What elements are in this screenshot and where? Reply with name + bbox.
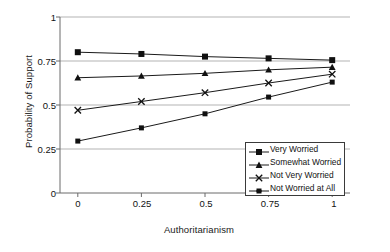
data-point-marker xyxy=(266,95,271,100)
legend-marker-square-small-icon xyxy=(248,183,270,195)
legend-item-not-worried-at-all: Not Worried at All xyxy=(246,182,344,195)
legend-marker-cross-icon xyxy=(248,170,270,182)
series-4 xyxy=(75,80,334,144)
data-point-marker xyxy=(139,125,144,130)
legend-label: Very Worried xyxy=(270,145,318,153)
legend-item-somewhat-worried: Somewhat Worried xyxy=(246,156,344,169)
legend-label: Not Very Worried xyxy=(270,171,334,179)
data-series-layer xyxy=(74,49,335,143)
plot-area xyxy=(0,0,390,252)
chart-figure: Probability of Support 1 0.75 0.5 0.25 0… xyxy=(0,0,390,252)
legend-item-very-worried: Very Worried xyxy=(246,143,344,156)
data-point-marker xyxy=(266,55,272,61)
chart-legend: Very Worried Somewhat Worried Not Very W… xyxy=(245,142,345,196)
legend-marker-triangle-icon xyxy=(248,157,270,169)
series-2 xyxy=(74,64,335,81)
legend-label: Not Worried at All xyxy=(270,184,335,192)
data-point-marker xyxy=(330,80,335,85)
series-3 xyxy=(75,71,336,113)
legend-item-not-very-worried: Not Very Worried xyxy=(246,169,344,182)
legend-marker-square-icon xyxy=(248,144,270,156)
data-point-marker xyxy=(75,49,81,55)
grid-lines xyxy=(60,17,350,149)
legend-label: Somewhat Worried xyxy=(270,158,341,166)
data-point-marker xyxy=(75,139,80,144)
data-point-marker xyxy=(202,54,208,60)
data-point-marker xyxy=(329,57,335,63)
data-point-marker xyxy=(138,51,144,57)
data-point-marker xyxy=(203,111,208,116)
